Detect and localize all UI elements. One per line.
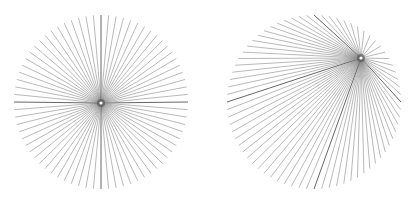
spoke-line (101, 87, 187, 103)
spoke-line (15, 87, 101, 103)
centered-star-panel (14, 15, 188, 189)
spoke-line (247, 58, 361, 158)
spoke-line (322, 15, 361, 58)
spoke-line (271, 58, 362, 177)
focus-point (359, 56, 362, 59)
spoke-line (239, 58, 361, 59)
spoke-line (361, 58, 398, 79)
spoke-line (64, 103, 101, 181)
offset-star-panel (227, 15, 401, 189)
spoke-line (258, 35, 361, 58)
focus-point (99, 101, 102, 104)
spoke-line (101, 103, 138, 181)
spoke-line (243, 58, 361, 152)
spoke-line (277, 23, 361, 58)
spoke-line (230, 58, 361, 125)
spoke-line (14, 102, 101, 103)
spoke-line (361, 58, 401, 102)
radial-lines-figure (0, 0, 414, 204)
spoke-line (322, 58, 361, 189)
spoke-line (227, 58, 361, 94)
spoke-line (26, 59, 101, 104)
spoke-line (227, 58, 361, 110)
spoke-line (230, 58, 361, 79)
spoke-line (361, 58, 389, 59)
spoke-line (101, 59, 176, 104)
spoke-line (101, 102, 188, 103)
spoke-line (264, 58, 361, 173)
spoke-line (306, 15, 361, 58)
spoke-line (337, 58, 361, 186)
